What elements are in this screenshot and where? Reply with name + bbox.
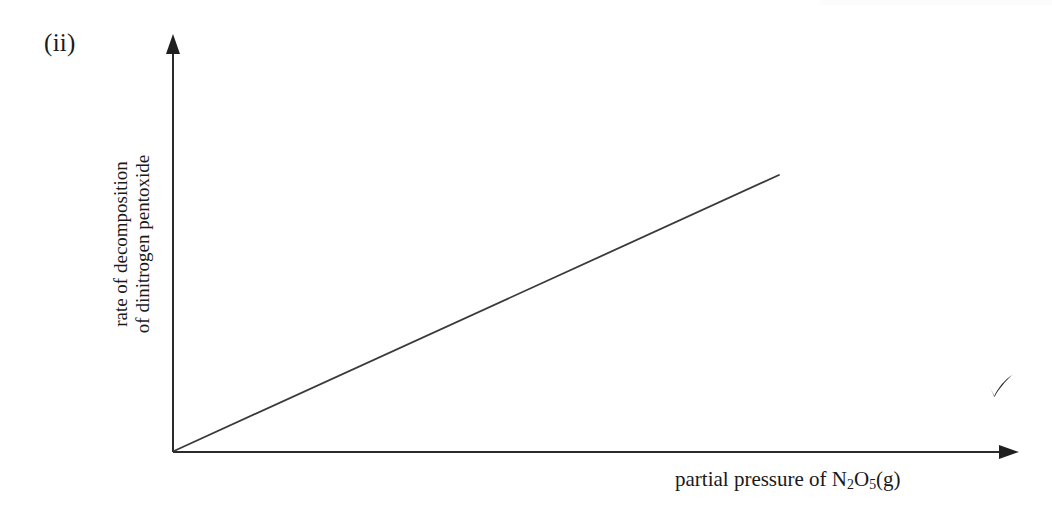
x-axis-label-text: partial pressure of N <box>675 467 847 491</box>
check-mark-svg <box>985 370 1017 402</box>
x-axis-label-oxygen: O <box>854 467 869 491</box>
page-canvas: (ii) rate of decomposition of dinitrogen… <box>0 0 1052 524</box>
check-mark-icon <box>985 370 1017 402</box>
y-axis-label: rate of decomposition of dinitrogen pent… <box>110 155 155 333</box>
graph-svg <box>0 0 1052 524</box>
y-axis-arrowhead-icon <box>166 34 180 54</box>
graph-figure <box>0 0 1052 524</box>
y-axis-label-line-2: of dinitrogen pentoxide <box>132 155 154 333</box>
check-mark-path <box>989 375 1013 397</box>
x-axis-label: partial pressure of N2O5(g) <box>675 466 901 494</box>
y-axis-label-line-1: rate of decomposition <box>110 155 132 333</box>
x-axis-label-state-symbol: (g) <box>876 467 901 491</box>
plot-line-series-1 <box>174 175 779 451</box>
x-axis-arrowhead-icon <box>999 445 1019 459</box>
x-axis-label-subscript-2: 2 <box>847 477 854 492</box>
